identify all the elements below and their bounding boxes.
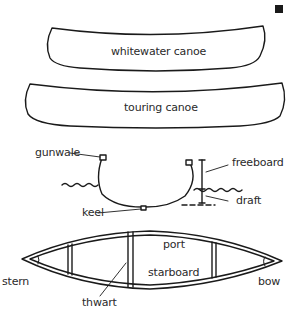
water-left — [62, 184, 98, 187]
freeboard-label: freeboard — [232, 157, 284, 168]
keel-block — [141, 206, 146, 210]
hull-cross-section — [99, 158, 194, 207]
thwart-label: thwart — [82, 297, 117, 308]
draft-label: draft — [236, 195, 261, 206]
stern-label: stern — [2, 276, 29, 287]
port-label: port — [163, 239, 185, 250]
starboard-label: starboard — [148, 267, 199, 278]
whitewater-canoe-label: whitewater canoe — [111, 46, 206, 57]
left-gunwale — [100, 155, 106, 160]
right-gunwale — [186, 160, 192, 165]
gunwale-label: gunwale — [35, 147, 80, 158]
top-view-outer-hull — [22, 231, 282, 289]
touring-canoe-label: touring canoe — [124, 102, 198, 113]
bow-label: bow — [258, 276, 280, 287]
keel-label: keel — [82, 207, 104, 218]
